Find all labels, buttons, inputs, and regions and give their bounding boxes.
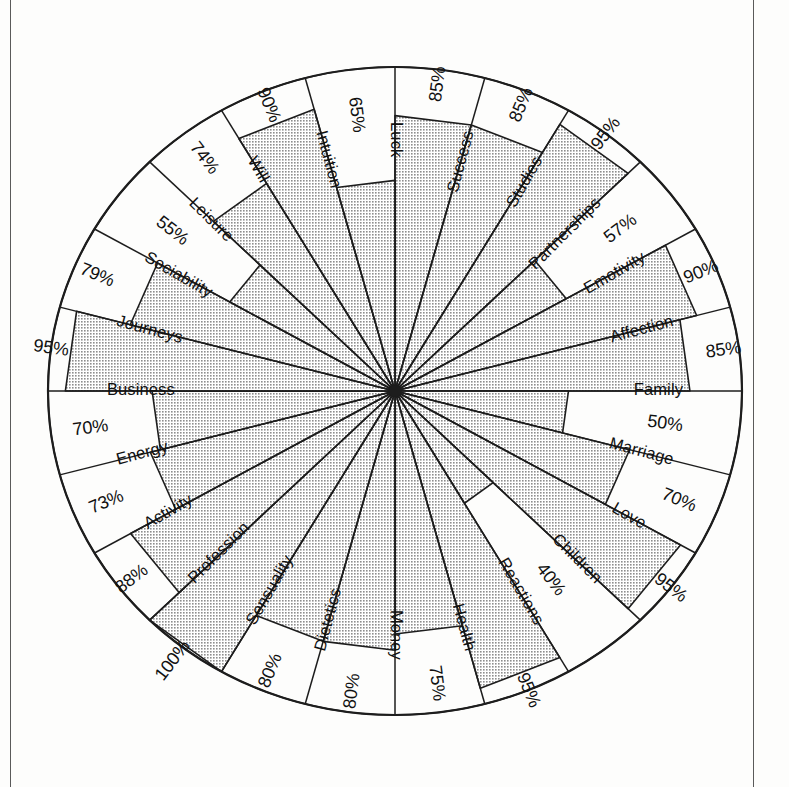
percent-label: 50%	[646, 411, 684, 435]
percent-label: 57%	[600, 209, 640, 247]
percent-label: 40%	[533, 559, 571, 599]
percent-label: 70%	[659, 484, 700, 516]
percent-label: 79%	[77, 259, 118, 291]
percent-label: 88%	[111, 560, 151, 598]
category-label: Money	[388, 610, 406, 661]
percent-label: 55%	[153, 212, 193, 250]
percent-label: 85%	[505, 84, 537, 125]
percent-label: 65%	[345, 96, 369, 134]
percent-label: 80%	[254, 650, 286, 691]
sector-outline	[60, 475, 95, 553]
percent-label: 85%	[425, 65, 449, 103]
sector-outline	[569, 620, 641, 671]
percent-label: 90%	[253, 84, 285, 125]
sector-outline	[94, 162, 149, 229]
percent-label: 75%	[425, 664, 449, 702]
sector-outline	[640, 162, 695, 229]
category-label: Luck	[388, 122, 406, 158]
percent-label: 90%	[680, 255, 721, 287]
radar-chart: Success 85%Studies 85%Partnerships 95%Em…	[0, 0, 789, 787]
percent-label: 80%	[339, 672, 363, 710]
category-label: Business	[107, 380, 175, 398]
sector-outline	[696, 475, 731, 553]
page-root: Success 85%Studies 85%Partnerships 95%Em…	[0, 0, 789, 787]
center-hub-dot	[389, 385, 401, 397]
percent-label: 74%	[186, 137, 224, 177]
percent-label: 73%	[86, 485, 127, 517]
percent-label: 95%	[32, 335, 70, 359]
percent-label: 70%	[71, 415, 109, 439]
category-label: Family	[634, 380, 684, 398]
radar-chart-svg: Success 85%Studies 85%Partnerships 95%Em…	[0, 0, 789, 787]
percent-label: 95%	[513, 670, 545, 711]
percent-label: 85%	[705, 337, 743, 361]
